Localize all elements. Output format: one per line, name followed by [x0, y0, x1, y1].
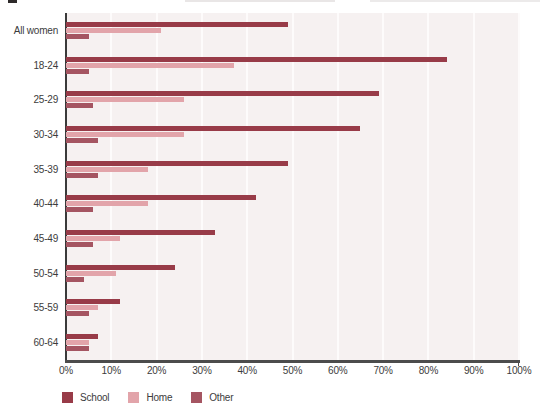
legend-swatch-other: [191, 392, 202, 403]
bar-home: [66, 132, 184, 137]
legend: SchoolHomeOther: [62, 392, 233, 403]
legend-label: Home: [146, 392, 172, 403]
legend-label: Other: [209, 392, 233, 403]
category-label: 18-24: [0, 60, 66, 71]
category-row: 50-54: [0, 256, 546, 291]
x-tick-label: 70%: [373, 365, 392, 376]
category-label: 30-34: [0, 129, 66, 140]
category-row: 40-44: [0, 187, 546, 222]
legend-swatch-school: [62, 392, 73, 403]
legend-swatch-home: [128, 392, 139, 403]
clipped-title-fragment: [8, 0, 17, 3]
bar-school: [66, 57, 447, 62]
bar-other: [66, 242, 93, 247]
bar-home: [66, 271, 116, 276]
category-row: All women: [0, 13, 546, 48]
bar-school: [66, 299, 120, 304]
legend-label: School: [80, 392, 109, 403]
category-label: 25-29: [0, 94, 66, 105]
bar-home: [66, 305, 98, 310]
bar-group: [66, 334, 98, 351]
category-label: 45-49: [0, 233, 66, 244]
x-tick-label: 30%: [192, 365, 211, 376]
bar-home: [66, 201, 148, 206]
bar-group: [66, 91, 379, 108]
category-row: 45-49: [0, 221, 546, 256]
category-label: 50-54: [0, 268, 66, 279]
bar-other: [66, 69, 89, 74]
bar-group: [66, 265, 175, 282]
legend-item-school: School: [62, 392, 109, 403]
bar-other: [66, 277, 84, 282]
bar-rows: All women18-2425-2930-3435-3940-4445-495…: [0, 13, 546, 360]
bar-home: [66, 97, 184, 102]
x-tick-label: 50%: [283, 365, 302, 376]
bar-school: [66, 22, 288, 27]
bar-group: [66, 161, 288, 178]
bar-home: [66, 340, 89, 345]
bar-other: [66, 346, 89, 351]
bar-group: [66, 195, 256, 212]
bar-other: [66, 138, 98, 143]
bar-home: [66, 28, 161, 33]
category-row: 30-34: [0, 117, 546, 152]
bar-school: [66, 334, 98, 339]
x-tick-label: 80%: [419, 365, 438, 376]
x-tick-label: 0%: [59, 365, 73, 376]
x-axis-line: [65, 360, 520, 363]
bar-school: [66, 265, 175, 270]
bar-other: [66, 207, 93, 212]
category-label: 40-44: [0, 198, 66, 209]
category-label: 55-59: [0, 302, 66, 313]
category-row: 35-39: [0, 152, 546, 187]
bar-home: [66, 63, 234, 68]
clipped-title-fragment: [370, 0, 540, 2]
x-tick-label: 40%: [237, 365, 256, 376]
x-tick-label: 60%: [328, 365, 347, 376]
bar-group: [66, 299, 120, 316]
x-tick-label: 90%: [464, 365, 483, 376]
category-row: 25-29: [0, 82, 546, 117]
bar-other: [66, 311, 89, 316]
bar-other: [66, 34, 89, 39]
x-axis-tick-labels: 0%10%20%30%40%50%60%70%80%90%100%: [0, 365, 546, 379]
category-row: 55-59: [0, 291, 546, 326]
bar-school: [66, 91, 379, 96]
grouped-bar-chart: All women18-2425-2930-3435-3940-4445-495…: [0, 0, 546, 417]
clipped-title-fragment: [185, 0, 335, 2]
bar-school: [66, 126, 360, 131]
bar-other: [66, 103, 93, 108]
bar-school: [66, 230, 215, 235]
category-row: 18-24: [0, 48, 546, 83]
category-label: All women: [0, 25, 66, 36]
x-tick-label: 20%: [147, 365, 166, 376]
bar-home: [66, 236, 120, 241]
bar-home: [66, 167, 148, 172]
bar-group: [66, 57, 447, 74]
bar-group: [66, 126, 360, 143]
bar-school: [66, 195, 256, 200]
bar-group: [66, 230, 215, 247]
legend-item-other: Other: [191, 392, 233, 403]
category-label: 35-39: [0, 164, 66, 175]
x-tick-label: 100%: [507, 365, 532, 376]
bar-school: [66, 161, 288, 166]
legend-item-home: Home: [128, 392, 172, 403]
bar-other: [66, 173, 98, 178]
category-label: 60-64: [0, 337, 66, 348]
bar-group: [66, 22, 288, 39]
category-row: 60-64: [0, 325, 546, 360]
x-tick-label: 10%: [102, 365, 121, 376]
